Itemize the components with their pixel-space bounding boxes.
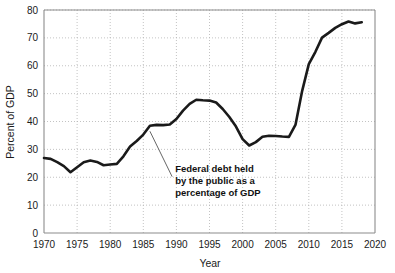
x-tick-label: 1985 — [132, 239, 155, 250]
x-tick-label: 1970 — [33, 239, 56, 250]
y-tick-label: 40 — [27, 116, 39, 127]
y-tick-labels: 01020304050607080 — [27, 5, 39, 239]
y-tick-label: 60 — [27, 60, 39, 71]
x-tick-label: 2005 — [265, 239, 288, 250]
y-tick-label: 50 — [27, 88, 39, 99]
x-tick-label: 1980 — [99, 239, 122, 250]
x-tick-label: 1995 — [198, 239, 221, 250]
x-tick-label: 2020 — [364, 239, 387, 250]
x-tick-label: 2010 — [298, 239, 321, 250]
x-tick-labels: 1970197519801985199019952000200520102015… — [33, 239, 387, 250]
y-tick-label: 70 — [27, 32, 39, 43]
x-tick-label: 2000 — [231, 239, 254, 250]
x-axis-title: Year — [199, 257, 221, 269]
federal-debt-line-chart: 01020304050607080 1970197519801985199019… — [0, 0, 395, 273]
y-tick-label: 80 — [27, 5, 39, 16]
x-tick-label: 1990 — [165, 239, 188, 250]
annotation-text-line-1: Federal debt held — [175, 163, 254, 174]
x-tick-label: 1975 — [66, 239, 89, 250]
annotation-text-line-2: by the public as a — [175, 175, 255, 186]
x-tick-label: 2015 — [331, 239, 354, 250]
y-axis-title: Percent of GDP — [4, 85, 16, 159]
annotation-text-line-3: percentage of GDP — [175, 187, 261, 198]
y-tick-label: 20 — [27, 172, 39, 183]
chart-figure: 01020304050607080 1970197519801985199019… — [0, 0, 395, 273]
y-tick-label: 0 — [32, 228, 38, 239]
y-tick-label: 30 — [27, 144, 39, 155]
chart-background — [0, 0, 395, 273]
y-tick-label: 10 — [27, 200, 39, 211]
